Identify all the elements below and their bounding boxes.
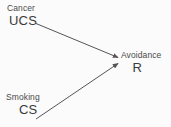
node-ucs-title: Cancer xyxy=(7,3,37,13)
node-ucs: Cancer UCS xyxy=(7,3,37,28)
node-avoidance-code: R xyxy=(121,60,161,75)
node-cs: Smoking CS xyxy=(6,92,40,117)
node-cs-code: CS xyxy=(6,102,40,117)
conditioning-diagram: Cancer UCS Smoking CS Avoidance R xyxy=(0,0,171,127)
node-avoidance-title: Avoidance xyxy=(121,50,161,60)
arrow-cs-to-avoidance xyxy=(36,64,118,120)
node-avoidance: Avoidance R xyxy=(121,50,161,75)
node-ucs-code: UCS xyxy=(7,13,37,28)
arrow-ucs-to-avoidance xyxy=(36,24,118,58)
node-cs-title: Smoking xyxy=(6,92,40,102)
